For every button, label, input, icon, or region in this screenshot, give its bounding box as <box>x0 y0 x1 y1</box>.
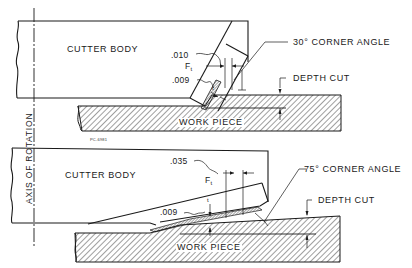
top-workpiece-label: WORK PIECE <box>178 118 244 127</box>
bottom-dim-lower: .009 <box>160 208 177 217</box>
top-force-subscript: t <box>190 66 192 72</box>
top-cutter-body-label: CUTTER BODY <box>67 45 138 54</box>
bottom-depth-cut-label: DEPTH CUT <box>318 196 375 205</box>
bottom-thickness-label: t <box>207 197 209 203</box>
top-corner-angle-label: 30° CORNER ANGLE <box>293 38 390 47</box>
top-depth-cut-label: DEPTH CUT <box>293 74 350 83</box>
bottom-corner-angle-label: 75° CORNER ANGLE <box>304 165 401 174</box>
figure-code: PC-6981 <box>90 138 107 142</box>
bottom-force-subscript: t <box>210 180 212 186</box>
top-dim-lower: .009 <box>172 76 189 85</box>
top-dim-upper: .010 <box>171 51 188 60</box>
bottom-force-label: Ft <box>205 176 212 186</box>
top-force-label: Ft <box>185 62 192 72</box>
bottom-workpiece-label: WORK PIECE <box>176 243 242 252</box>
cutter-corner-angle-diagram: AXIS OF ROTATION CUTTER BODY .010 .009 F… <box>0 0 412 268</box>
top-thickness-label: t <box>212 85 214 91</box>
axis-of-rotation-label: AXIS OF ROTATION <box>25 113 34 204</box>
bottom-dim-upper: .035 <box>170 157 187 166</box>
bottom-cutter-body-label: CUTTER BODY <box>65 171 136 180</box>
